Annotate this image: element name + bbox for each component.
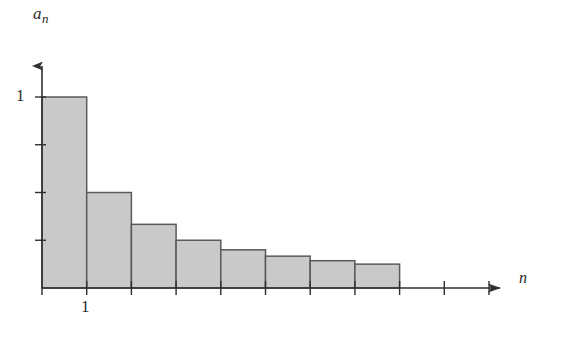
bar — [266, 256, 311, 288]
bar — [221, 250, 266, 288]
x-axis-label: n — [519, 269, 527, 287]
y-axis-label-base: a — [33, 4, 42, 23]
x-axis-tick-label-1: 1 — [81, 297, 90, 317]
y-axis-tick-label-1: 1 — [16, 86, 25, 106]
y-axis-label: an — [33, 4, 49, 27]
chart-canvas — [0, 0, 565, 341]
bars-group — [42, 97, 400, 288]
bar — [310, 261, 355, 288]
bar — [87, 193, 132, 289]
harmonic-series-bar-chart: an n 1 1 — [0, 0, 565, 341]
bar — [176, 240, 221, 288]
bar — [131, 224, 176, 288]
y-axis-label-subscript: n — [42, 11, 49, 26]
bar — [355, 264, 400, 288]
bar — [42, 97, 87, 288]
